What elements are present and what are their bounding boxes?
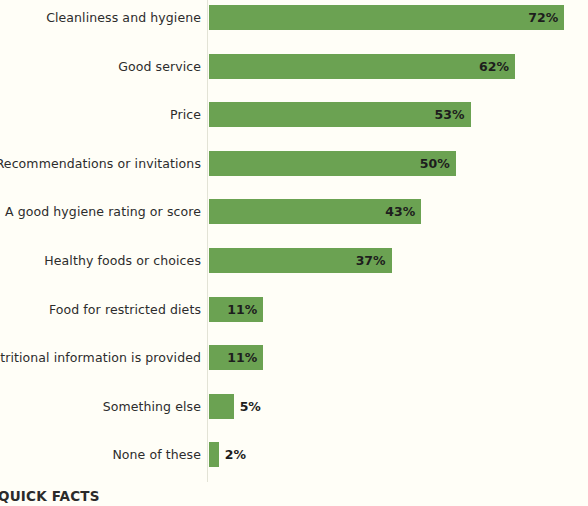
bar-value-label: 2%: [225, 442, 246, 467]
bar-value-label: 37%: [356, 248, 386, 273]
bar: 43%: [209, 199, 421, 224]
bar: [209, 394, 234, 419]
bar: 53%: [209, 102, 471, 127]
footer-title: QUICK FACTS: [0, 488, 100, 504]
category-label: A good hygiene rating or score: [5, 199, 201, 224]
category-label: Nutritional information is provided: [0, 345, 201, 370]
bar-chart: Cleanliness and hygiene72%Good service62…: [0, 0, 588, 506]
bar-row: Something else5%: [0, 394, 588, 419]
bar-value-label: 50%: [420, 151, 450, 176]
category-label: Good service: [118, 54, 201, 79]
bar-row: None of these2%: [0, 442, 588, 467]
bar: 72%: [209, 5, 564, 30]
bar: 11%: [209, 345, 263, 370]
category-label: Food for restricted diets: [49, 297, 201, 322]
bar-row: Cleanliness and hygiene72%: [0, 5, 588, 30]
bar-row: Recommendations or invitations50%: [0, 151, 588, 176]
bar: [209, 442, 219, 467]
bar: 50%: [209, 151, 456, 176]
bar-row: Food for restricted diets11%: [0, 297, 588, 322]
bar-row: Price53%: [0, 102, 588, 127]
category-label: Price: [170, 102, 201, 127]
bar-row: A good hygiene rating or score43%: [0, 199, 588, 224]
category-label: Recommendations or invitations: [0, 151, 201, 176]
category-label: Cleanliness and hygiene: [46, 5, 201, 30]
bar-value-label: 72%: [528, 5, 558, 30]
bar-row: Healthy foods or choices37%: [0, 248, 588, 273]
bar-value-label: 43%: [385, 199, 415, 224]
category-label: Healthy foods or choices: [44, 248, 201, 273]
plot-area: Cleanliness and hygiene72%Good service62…: [0, 0, 588, 482]
category-label: None of these: [112, 442, 201, 467]
bar-row: Good service62%: [0, 54, 588, 79]
bar: 11%: [209, 297, 263, 322]
bar-value-label: 11%: [227, 297, 257, 322]
category-label: Something else: [103, 394, 201, 419]
bar-value-label: 11%: [227, 345, 257, 370]
bar-rows: Cleanliness and hygiene72%Good service62…: [0, 0, 588, 482]
bar-value-label: 5%: [240, 394, 261, 419]
bar: 37%: [209, 248, 392, 273]
bar: 62%: [209, 54, 515, 79]
bar-row: Nutritional information is provided11%: [0, 345, 588, 370]
bar-value-label: 62%: [479, 54, 509, 79]
footer: QUICK FACTS: [0, 488, 588, 506]
bar-value-label: 53%: [435, 102, 465, 127]
